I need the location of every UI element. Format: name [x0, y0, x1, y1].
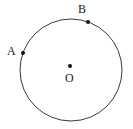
point-b-label: B — [78, 3, 86, 15]
point-a-dot — [21, 51, 25, 55]
point-o-label: O — [65, 72, 74, 84]
point-o-center-dot — [68, 64, 72, 68]
point-b-dot — [86, 20, 90, 24]
circle-outline — [20, 19, 122, 121]
geometry-canvas — [0, 0, 133, 129]
circle-diagram-figure: A B O — [0, 0, 133, 129]
point-a-label: A — [7, 45, 16, 57]
